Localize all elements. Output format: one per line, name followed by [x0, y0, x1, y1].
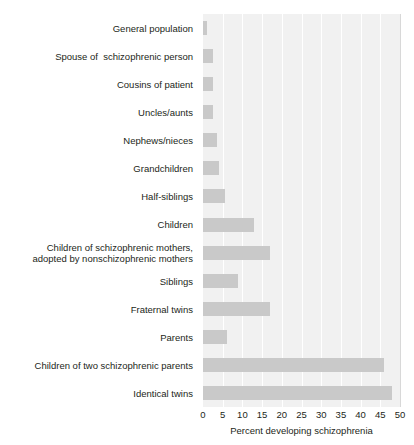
bar — [203, 246, 270, 260]
category-axis: General populationSpouse of schizophreni… — [0, 14, 199, 407]
bar — [203, 218, 254, 232]
category-label: General population — [0, 23, 193, 34]
bar — [203, 330, 227, 344]
bar — [203, 358, 384, 372]
bar-series — [203, 14, 400, 407]
x-tick-label: 5 — [220, 409, 225, 420]
bar — [203, 302, 270, 316]
bar — [203, 274, 238, 288]
bar — [203, 105, 213, 119]
x-axis-title: Percent developing schizophrenia — [203, 425, 400, 437]
category-label: Parents — [0, 332, 193, 343]
x-tick-label: 10 — [237, 409, 248, 420]
x-tick-label: 50 — [395, 409, 406, 420]
x-tick-label: 15 — [257, 409, 268, 420]
x-tick-label: 45 — [375, 409, 386, 420]
x-tick-label: 40 — [355, 409, 366, 420]
bar — [203, 133, 217, 147]
bar-chart-figure: General populationSpouse of schizophreni… — [0, 0, 414, 445]
category-label: Fraternal twins — [0, 304, 193, 315]
category-label: Identical twins — [0, 388, 193, 399]
x-tick-label: 25 — [296, 409, 307, 420]
x-tick-label: 0 — [200, 409, 205, 420]
x-tick-label: 20 — [277, 409, 288, 420]
category-label: Grandchildren — [0, 163, 193, 174]
category-label: Children — [0, 219, 193, 230]
category-label: Siblings — [0, 276, 193, 287]
category-label: Cousins of patient — [0, 79, 193, 90]
category-label: Spouse of schizophrenic person — [0, 51, 193, 62]
x-tick-label: 35 — [336, 409, 347, 420]
bar — [203, 189, 225, 203]
category-label: Nephews/nieces — [0, 135, 193, 146]
category-label: Uncles/aunts — [0, 107, 193, 118]
category-label: Children of schizophrenic mothers, adopt… — [0, 242, 193, 264]
bar — [203, 386, 392, 400]
category-label: Half-siblings — [0, 191, 193, 202]
bar — [203, 49, 213, 63]
gridline — [400, 14, 401, 407]
plot-area — [203, 14, 401, 407]
bar — [203, 161, 219, 175]
x-tick-label: 30 — [316, 409, 327, 420]
value-axis: 05101520253035404550 — [203, 407, 400, 423]
category-label: Children of two schizophrenic parents — [0, 360, 193, 371]
bar — [203, 77, 213, 91]
bar — [203, 21, 207, 35]
